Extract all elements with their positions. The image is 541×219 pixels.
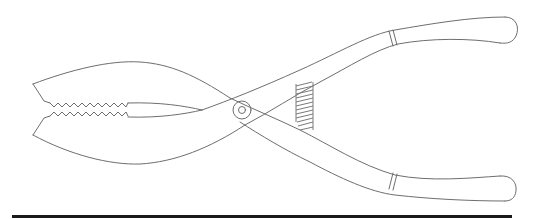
upper-handle [202,17,518,125]
lower-jaw [33,110,245,164]
upper-grip-band [389,30,397,46]
bottom-rule [12,215,512,218]
lower-handle [230,98,516,201]
coil-spring [296,82,313,130]
pliers-illustration [0,0,541,219]
upper-jaw [33,62,230,110]
serrated-teeth [50,103,128,116]
